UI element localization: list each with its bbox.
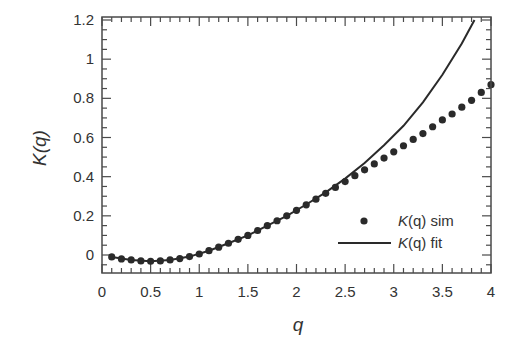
legend-fit-label: K(q) fit xyxy=(398,234,443,251)
legend-sim-label: K(q) sim xyxy=(398,212,454,229)
sim-point xyxy=(244,232,251,239)
x-tick-label: 2 xyxy=(292,283,300,300)
sim-point xyxy=(410,136,417,143)
sim-point xyxy=(225,240,232,247)
x-tick-label: 3 xyxy=(390,283,398,300)
sim-point xyxy=(215,244,222,251)
sim-point xyxy=(342,178,349,185)
y-tick-label: 0.6 xyxy=(73,129,94,146)
sim-point xyxy=(390,148,397,155)
sim-point xyxy=(439,116,446,123)
sim-point xyxy=(429,123,436,130)
sim-point xyxy=(254,227,261,234)
sim-point xyxy=(400,142,407,149)
sim-point xyxy=(332,184,339,191)
sim-point xyxy=(137,257,144,264)
y-tick-labels: 00.20.40.60.811.2 xyxy=(73,11,94,263)
sim-point xyxy=(283,212,290,219)
y-axis-label: K(q) xyxy=(29,130,50,166)
sim-point xyxy=(128,256,135,263)
sim-point xyxy=(186,253,193,260)
sim-point xyxy=(264,222,271,229)
sim-point xyxy=(166,256,173,263)
x-tick-label: 0 xyxy=(98,283,106,300)
x-tick-label: 1.5 xyxy=(237,283,258,300)
x-tick-labels: 00.511.522.533.54 xyxy=(98,283,495,300)
sim-point xyxy=(351,172,358,179)
x-tick-label: 4 xyxy=(487,283,495,300)
x-tick-label: 0.5 xyxy=(140,283,161,300)
sim-point xyxy=(468,97,475,104)
y-tick-label: 0.2 xyxy=(73,207,94,224)
sim-point xyxy=(147,258,154,265)
sim-point xyxy=(176,255,183,262)
sim-point xyxy=(478,89,485,96)
legend-sim-marker xyxy=(360,217,367,224)
sim-point xyxy=(235,236,242,243)
chart-svg: 00.511.522.533.54 00.20.40.60.811.2 q K(… xyxy=(0,0,520,348)
y-tick-label: 0 xyxy=(86,246,94,263)
sim-point xyxy=(380,154,387,161)
sim-point xyxy=(458,104,465,111)
sim-point xyxy=(449,110,456,117)
sim-point xyxy=(293,207,300,214)
y-tick-label: 1 xyxy=(86,50,94,67)
y-tick-label: 0.8 xyxy=(73,89,94,106)
sim-point xyxy=(273,217,280,224)
sim-point xyxy=(371,160,378,167)
sim-point xyxy=(322,190,329,197)
y-tick-label: 0.4 xyxy=(73,168,94,185)
sim-point xyxy=(419,130,426,137)
x-axis-label: q xyxy=(293,314,304,335)
sim-point xyxy=(303,201,310,208)
sim-point xyxy=(108,253,115,260)
sim-point xyxy=(118,255,125,262)
x-tick-label: 3.5 xyxy=(432,283,453,300)
sim-point xyxy=(361,166,368,173)
x-tick-label: 2.5 xyxy=(335,283,356,300)
x-tick-label: 1 xyxy=(195,283,203,300)
sim-point xyxy=(312,196,319,203)
sim-point xyxy=(196,250,203,257)
y-tick-label: 1.2 xyxy=(73,11,94,28)
sim-point xyxy=(205,247,212,254)
legend: K(q) sim K(q) fit xyxy=(338,212,454,251)
sim-point xyxy=(157,257,164,264)
